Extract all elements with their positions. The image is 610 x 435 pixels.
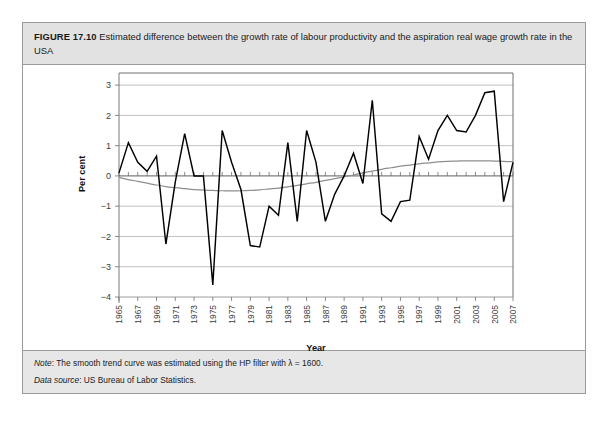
x-tick-label: 1987 — [321, 305, 331, 324]
note-text: : The smooth trend curve was estimated u… — [52, 358, 323, 368]
source-row: Data source: US Bureau of Labor Statisti… — [34, 374, 574, 387]
y-tick-label: −2 — [101, 232, 111, 242]
x-tick-label: 1973 — [189, 305, 199, 324]
x-tick-label: 1979 — [246, 305, 256, 324]
x-tick-label: 1971 — [171, 305, 181, 324]
figure-number: FIGURE 17.10 — [34, 31, 97, 42]
x-axis-title: Year — [306, 343, 326, 353]
figure-container: FIGURE 17.10 Estimated difference betwee… — [22, 22, 586, 394]
x-tick-label: 1993 — [377, 305, 387, 324]
plot-area: 3210−1−2−3−4 196519671969197119731975197… — [23, 65, 585, 350]
figure-caption: Estimated difference between the growth … — [34, 31, 572, 56]
source-text: : US Bureau of Labor Statistics. — [79, 375, 196, 385]
figure-notes-band: Note: The smooth trend curve was estimat… — [23, 350, 585, 393]
x-tick-label: 1995 — [396, 305, 406, 324]
x-tick-label: 1999 — [433, 305, 443, 324]
y-tick-label: −1 — [101, 201, 111, 211]
x-tick-label: 1981 — [264, 305, 274, 324]
figure-title-band: FIGURE 17.10 Estimated difference betwee… — [23, 23, 585, 65]
note-row: Note: The smooth trend curve was estimat… — [34, 357, 574, 370]
y-tick-label: −4 — [101, 292, 111, 302]
note-label: Note — [34, 358, 52, 368]
y-tick-label: −3 — [101, 262, 111, 272]
chart-svg: 3210−1−2−3−4 196519671969197119731975197… — [23, 65, 585, 355]
x-tick-label: 1983 — [283, 305, 293, 324]
x-tick-label: 1975 — [208, 305, 218, 324]
source-label: Data source — [34, 375, 79, 385]
x-tick-label: 1969 — [152, 305, 162, 324]
y-tick-label: 1 — [106, 141, 111, 151]
y-tick-label: 3 — [106, 80, 111, 90]
x-tick-label: 1985 — [302, 305, 312, 324]
x-tick-label: 2005 — [490, 305, 500, 324]
x-tick-label: 2007 — [508, 305, 518, 324]
x-tick-label: 1977 — [227, 305, 237, 324]
x-tick-label: 1991 — [358, 305, 368, 324]
y-tick-label: 2 — [106, 111, 111, 121]
x-tick-label: 2001 — [452, 305, 462, 324]
y-axis-ticks — [115, 85, 119, 297]
gridlines-group — [119, 85, 513, 297]
y-axis-title: Per cent — [77, 156, 87, 192]
x-tick-label: 1997 — [414, 305, 424, 324]
x-tick-label: 2003 — [471, 305, 481, 324]
y-axis-tick-labels: 3210−1−2−3−4 — [101, 80, 111, 302]
x-tick-label: 1989 — [339, 305, 349, 324]
y-tick-label: 0 — [106, 171, 111, 181]
x-axis-tick-labels: 1965196719691971197319751977197919811983… — [114, 305, 518, 324]
x-tick-label: 1967 — [133, 305, 143, 324]
x-tick-label: 1965 — [114, 305, 124, 324]
